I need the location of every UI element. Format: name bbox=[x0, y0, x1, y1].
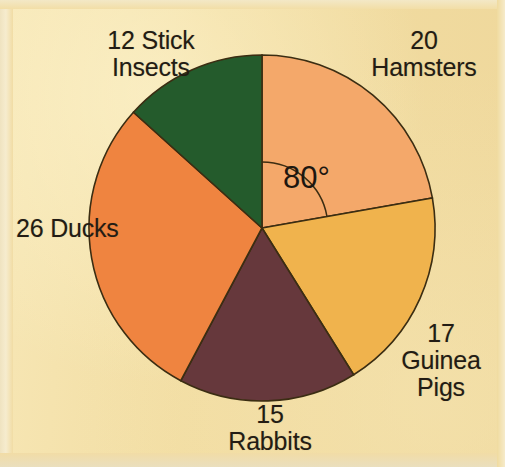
slice-label-stick-insects: 12 Stick Insects bbox=[78, 27, 224, 81]
angle-measure-label: 80° bbox=[283, 160, 330, 196]
figure-canvas: 12 Stick Insects 20 Hamsters 17 Guinea P… bbox=[0, 0, 505, 467]
slice-label-ducks: 26 Ducks bbox=[16, 215, 176, 242]
slice-label-hamsters: 20 Hamsters bbox=[350, 27, 498, 81]
slice-label-rabbits: 15 Rabbits bbox=[196, 401, 344, 455]
slice-label-guinea-pigs: 17 Guinea Pigs bbox=[382, 320, 500, 401]
